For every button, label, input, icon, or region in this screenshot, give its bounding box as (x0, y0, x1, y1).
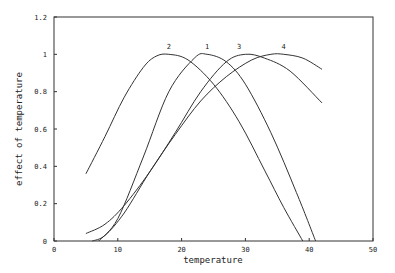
curve-labels: 2134 (167, 43, 286, 51)
y-tick-label: 0 (43, 238, 47, 246)
curve-4 (92, 54, 322, 241)
curve-label-2: 2 (167, 43, 171, 51)
y-tick-label: 1 (43, 51, 47, 59)
x-tick-label: 10 (114, 246, 122, 254)
x-tick-label: 40 (305, 246, 313, 254)
curve-label-4: 4 (282, 43, 286, 51)
curves (86, 54, 322, 241)
plot-frame (54, 17, 373, 241)
y-tick-label: 0.2 (34, 200, 47, 208)
line-chart: 0102030405000.20.40.60.811.2 2134 temper… (0, 0, 395, 273)
y-tick-label: 0.8 (34, 88, 47, 96)
curve-label-3: 3 (237, 43, 241, 51)
y-tick-label: 1.2 (34, 14, 47, 22)
curve-1 (99, 54, 316, 241)
curve-2 (86, 54, 303, 241)
curve-label-1: 1 (205, 43, 209, 51)
x-tick-label: 0 (52, 246, 56, 254)
x-tick-label: 50 (369, 246, 377, 254)
x-tick-label: 30 (241, 246, 249, 254)
y-tick-label: 0.4 (34, 163, 47, 171)
y-tick-label: 0.6 (34, 126, 47, 134)
x-tick-label: 20 (177, 246, 185, 254)
y-axis-label: effect of temperature (14, 72, 24, 186)
x-axis-label: temperature (183, 255, 243, 265)
curve-3 (86, 54, 322, 233)
